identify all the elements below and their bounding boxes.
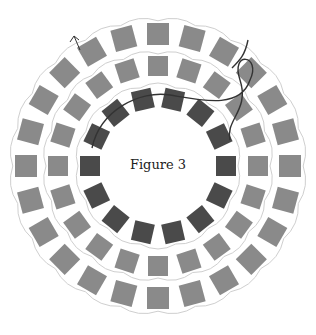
outer-ring-bead: [272, 118, 299, 145]
middle-ring-bead: [241, 122, 266, 147]
outer-ring-bead: [110, 280, 137, 307]
inner-ring-bead: [131, 220, 155, 244]
inner-ring-bead: [186, 99, 214, 127]
outer-ring-bead: [179, 25, 206, 52]
outer-ring-bead: [236, 244, 267, 275]
inner-ring-bead: [216, 156, 236, 176]
outer-ring-bead: [110, 25, 137, 52]
outer-ring-bead: [15, 155, 37, 177]
middle-ring-bead: [85, 71, 113, 99]
middle-ring-bead: [63, 211, 91, 239]
middle-ring-bead: [114, 249, 139, 274]
outer-ring-bead: [17, 118, 44, 145]
middle-ring-bead: [148, 56, 168, 76]
inner-ring-bead: [161, 88, 185, 112]
outer-ring-bead: [147, 23, 169, 45]
figure-3-diagram: Figure 3: [0, 0, 316, 335]
middle-ring-bead: [85, 233, 113, 261]
outer-ring-bead: [49, 57, 80, 88]
figure-caption: Figure 3: [118, 157, 198, 172]
middle-ring-bead: [114, 58, 139, 83]
middle-ring-bead: [50, 184, 75, 209]
middle-ring-bead: [176, 58, 201, 83]
middle-ring-bead: [203, 233, 231, 261]
middle-ring-bead: [225, 93, 253, 121]
middle-ring-bead: [176, 249, 201, 274]
outer-ring-bead: [272, 187, 299, 214]
inner-ring-bead: [161, 220, 185, 244]
outer-ring-bead: [17, 187, 44, 214]
inner-ring-bead: [206, 123, 233, 150]
middle-ring-bead: [225, 211, 253, 239]
middle-ring-bead: [148, 256, 168, 276]
outer-ring-bead: [147, 287, 169, 309]
inner-ring-bead: [83, 123, 110, 150]
inner-ring-bead: [206, 182, 233, 209]
outer-ring-bead: [279, 155, 301, 177]
middle-ring-bead: [48, 156, 68, 176]
inner-ring-bead: [186, 205, 214, 233]
outer-ring-bead: [49, 244, 80, 275]
middle-ring-bead: [203, 71, 231, 99]
middle-ring-bead: [248, 156, 268, 176]
outer-ring-bead: [179, 280, 206, 307]
middle-ring-bead: [50, 122, 75, 147]
inner-ring-bead: [80, 156, 100, 176]
middle-ring-bead: [241, 184, 266, 209]
middle-ring-bead: [63, 93, 91, 121]
inner-ring-bead: [83, 182, 110, 209]
inner-ring-bead: [102, 205, 130, 233]
